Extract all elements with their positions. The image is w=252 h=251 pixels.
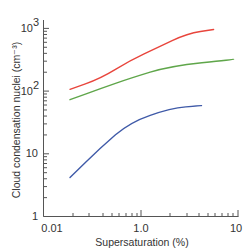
y-axis-ticks xyxy=(44,28,50,216)
y-tick-label-10: 10 xyxy=(26,147,38,159)
y-tick-label-1000: 10 xyxy=(21,22,33,34)
series-line-red xyxy=(70,30,214,90)
x-tick-label-0.01: 0.01 xyxy=(41,222,62,234)
x-tick-labels: 0.01 1.0 10 xyxy=(41,222,242,234)
cloud-condensation-nuclei-chart: 1 10 10 2 10 3 0.01 1.0 10 Supersaturati… xyxy=(0,0,252,251)
x-tick-label-10: 10 xyxy=(230,222,242,234)
y-axis-title: Cloud condensation nuclei (cm⁻³) xyxy=(10,42,22,199)
x-axis-title: Supersaturation (%) xyxy=(95,236,188,248)
y-tick-label-100: 10 xyxy=(21,85,33,97)
series-line-blue xyxy=(70,105,202,177)
data-series xyxy=(70,30,234,178)
y-tick-label-100-exponent: 2 xyxy=(33,79,39,91)
x-tick-label-1.0: 1.0 xyxy=(133,222,148,234)
y-tick-label-1000-exponent: 3 xyxy=(33,16,39,28)
x-axis-ticks xyxy=(73,210,238,217)
y-tick-label-1: 1 xyxy=(32,210,38,222)
y-tick-labels: 1 10 10 2 10 3 xyxy=(21,16,39,222)
